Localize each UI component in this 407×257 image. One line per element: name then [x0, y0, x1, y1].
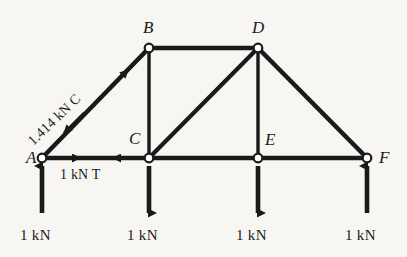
force-arrow-AB-upper — [108, 70, 128, 90]
joint-label-A: A — [26, 149, 36, 166]
load-label-F: 1 kN — [345, 228, 376, 243]
joint-B — [145, 44, 154, 53]
joint-F — [363, 154, 372, 163]
member-CD — [149, 48, 258, 158]
joint-label-E: E — [265, 131, 275, 148]
joint-C — [145, 154, 154, 163]
joint-D — [254, 44, 263, 53]
truss-drawing-canvas — [0, 0, 407, 257]
joint-label-F: F — [379, 149, 389, 166]
load-label-E: 1 kN — [236, 228, 267, 243]
joint-label-B: B — [143, 19, 153, 36]
joint-E — [254, 154, 263, 163]
load-label-C: 1 kN — [127, 228, 158, 243]
joint-A — [38, 154, 47, 163]
joint-label-C: C — [129, 130, 140, 147]
member-force-label-AC: 1 kN T — [60, 168, 101, 182]
truss-diagram: A B C D E F 1.414 kN C 1 kN T 1 kN 1 kN … — [0, 0, 407, 257]
joint-label-D: D — [252, 19, 264, 36]
load-label-A: 1 kN — [20, 228, 51, 243]
